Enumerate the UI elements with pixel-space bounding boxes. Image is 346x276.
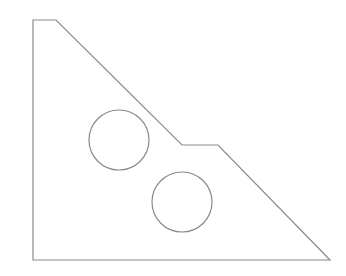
- hole-circle: [152, 172, 212, 232]
- diagram-canvas: [0, 0, 346, 276]
- hole-circle: [89, 110, 149, 170]
- plate-outline: [33, 20, 330, 260]
- plate-drawing: [0, 0, 346, 276]
